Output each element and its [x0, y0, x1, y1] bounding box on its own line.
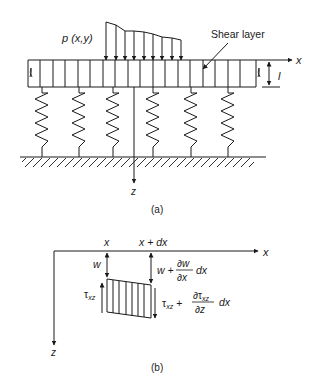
- dtau-tail: dx: [219, 296, 231, 308]
- spring-5: [184, 87, 197, 157]
- plus-sign: +: [176, 297, 182, 309]
- dtau-numerator: ∂τxz: [193, 290, 209, 302]
- load-label: p (x,y): [61, 32, 93, 44]
- shear-layer-label: Shear layer: [211, 28, 265, 40]
- spring-4: [146, 87, 159, 157]
- x-axis-label-b: x: [262, 246, 269, 258]
- spring-6: [221, 87, 234, 157]
- dx-tail: dx: [196, 264, 208, 276]
- dz-denominator: ∂z: [195, 304, 205, 315]
- diagram-canvas: p (x,y) Shear layer: [0, 0, 317, 385]
- load-distribution: [106, 22, 181, 60]
- shear-layer-slab: [28, 60, 260, 87]
- x-plus-dx-label: x + dx: [138, 236, 168, 248]
- z-axis-label-b: z: [50, 347, 56, 358]
- caption-b: (b): [151, 362, 163, 373]
- dtau-subscript: xz: [201, 295, 210, 302]
- tau-label: τxz: [84, 288, 96, 301]
- dw-numerator: ∂w: [177, 258, 190, 269]
- break-symbol-left-icon: [30, 68, 32, 77]
- shear-element: [107, 279, 151, 318]
- dx-denominator: ∂x: [177, 272, 188, 283]
- ground-hatching: [22, 158, 254, 167]
- w-plus-label: w +: [157, 264, 174, 276]
- caption-a: (a): [151, 204, 163, 215]
- spring-1: [35, 87, 48, 157]
- x-label: x: [103, 236, 110, 248]
- thickness-label: l: [278, 70, 281, 82]
- x-axis-label-a: x: [295, 54, 302, 66]
- break-symbol-right-icon: [258, 68, 260, 77]
- z-axis-label-a: z: [130, 186, 136, 197]
- spring-2: [72, 87, 85, 157]
- tau-subscript-2: xz: [165, 303, 174, 310]
- figure-a: p (x,y) Shear layer: [20, 22, 302, 215]
- w-label: w: [93, 258, 102, 270]
- figure-b: x z x x + dx w w + ∂w ∂x dx τ: [50, 236, 269, 373]
- dtau-symbol: ∂τ: [193, 290, 202, 301]
- tau-subscript: xz: [87, 294, 96, 301]
- spring-3: [106, 87, 119, 157]
- tau-plus-label: τxz+: [162, 297, 182, 310]
